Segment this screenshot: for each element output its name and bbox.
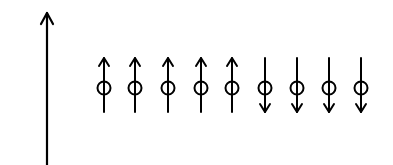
vertical-axis-arrow-icon [41, 13, 53, 165]
spin-down-icon [355, 58, 368, 112]
spin-row [98, 58, 368, 112]
spin-up-icon [195, 58, 208, 112]
spin-up-icon [162, 58, 175, 112]
spin-down-icon [259, 58, 272, 112]
spin-up-icon [98, 58, 111, 112]
spin-diagram [0, 0, 393, 165]
spin-down-icon [291, 58, 304, 112]
spin-up-icon [129, 58, 142, 112]
spin-up-icon [226, 58, 239, 112]
spin-down-icon [323, 58, 336, 112]
